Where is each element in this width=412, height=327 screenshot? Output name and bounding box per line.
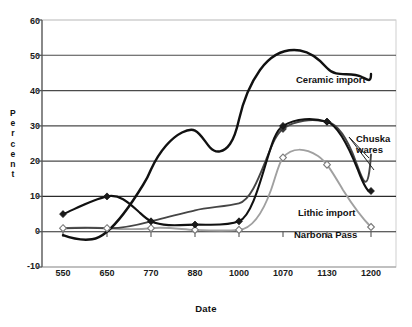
series-label-ceramic-import: Ceramic import [296,74,366,85]
plot-area [0,0,412,327]
chart-figure: 60 50 40 30 20 10 0 -10 P e r c e n t 55… [0,0,412,327]
series-label-narbona-pass: Narbona Pass [294,229,357,240]
series-label-chuska-wares: Chuska wares [356,133,390,155]
series-label-lithic-import: Lithic import [298,207,356,218]
y-axis-spine [37,20,42,267]
series-label-chuska-wares-line1: Chuska [356,133,390,144]
series-label-chuska-wares-line2: wares [356,144,390,155]
